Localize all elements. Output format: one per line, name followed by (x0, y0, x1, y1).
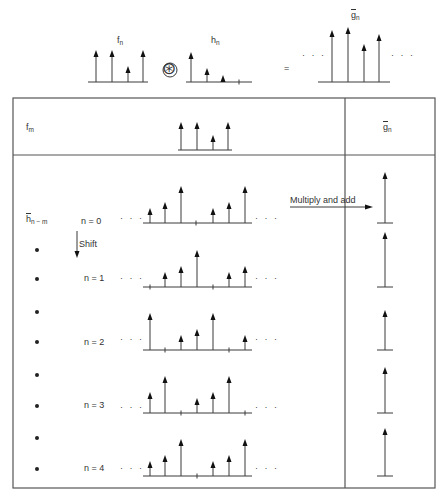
arrowhead-icon (226, 122, 231, 129)
row-label-n1: n = 1 (84, 274, 104, 283)
arrowhead-icon (227, 376, 232, 383)
arrowhead-icon (211, 392, 216, 399)
h-n-minus-m-label: hn − m (26, 215, 47, 224)
row-ellipsis-left: · · · (120, 335, 144, 344)
equals-sign: = (284, 64, 289, 73)
arrowhead-icon (362, 44, 367, 51)
bullet (35, 340, 39, 344)
arrowhead-icon (227, 455, 232, 462)
arrowhead-icon (211, 461, 216, 468)
g-n-column-header: gn (383, 123, 392, 132)
arrowhead-icon (383, 428, 388, 435)
multiply-arrow-head-icon (365, 205, 373, 210)
arrowhead-icon (383, 310, 388, 317)
row-ellipsis-left: · · · (120, 274, 144, 283)
shift-label: Shift (79, 240, 97, 249)
bullet (35, 404, 39, 408)
arrowhead-icon (227, 272, 232, 279)
arrowhead-icon (243, 186, 248, 193)
f-n-label: fn (117, 36, 123, 45)
arrowhead-icon (163, 455, 168, 462)
arrowhead-icon (163, 272, 168, 279)
arrowhead-icon (330, 30, 335, 37)
arrowhead-icon (179, 186, 184, 193)
arrowhead-icon (205, 68, 210, 75)
row-ellipsis-right: · · · (255, 274, 279, 283)
arrowhead-icon (179, 122, 184, 129)
arrowhead-icon (195, 122, 200, 129)
ellipsis-right: · · · (391, 51, 415, 60)
arrowhead-icon (211, 135, 216, 142)
arrowhead-icon (227, 202, 232, 209)
arrowhead-icon (195, 398, 200, 405)
arrowhead-icon (383, 172, 388, 179)
row-ellipsis-right: · · · (255, 214, 279, 223)
bullet (35, 310, 39, 314)
arrowhead-icon (179, 266, 184, 273)
arrowhead-icon (195, 329, 200, 336)
bullet (35, 436, 39, 440)
bullet (35, 467, 39, 471)
arrowhead-icon (189, 52, 194, 59)
g-n-bar-label: gn (351, 11, 360, 20)
arrowhead-icon (179, 439, 184, 446)
arrowhead-icon (377, 34, 382, 41)
arrowhead-icon (243, 266, 248, 273)
convolution-operator-icon: ⊛ (162, 60, 176, 77)
convolution-diagram (0, 0, 447, 500)
table-frame (13, 98, 435, 488)
arrowhead-icon (148, 313, 153, 320)
row-ellipsis-left: · · · (120, 464, 144, 473)
arrowhead-icon (383, 367, 388, 374)
row-ellipsis-right: · · · (255, 403, 279, 412)
bullet (35, 277, 39, 281)
row-ellipsis-right: · · · (255, 464, 279, 473)
arrowhead-icon (163, 376, 168, 383)
arrowhead-icon (148, 461, 153, 468)
row-ellipsis-right: · · · (255, 335, 279, 344)
arrowhead-icon (148, 208, 153, 215)
arrowhead-icon (211, 208, 216, 215)
arrowhead-icon (211, 313, 216, 320)
bullet (35, 373, 39, 377)
arrowhead-icon (141, 50, 146, 57)
arrowhead-icon (221, 75, 226, 82)
arrowhead-icon (126, 66, 131, 73)
arrowhead-icon (243, 439, 248, 446)
arrowhead-icon (163, 202, 168, 209)
arrowhead-icon (383, 232, 388, 239)
h-n-label: hn (211, 36, 220, 45)
shift-arrow-head-icon (75, 251, 80, 258)
bullet (35, 248, 39, 252)
arrowhead-icon (94, 50, 99, 57)
arrowhead-icon (148, 392, 153, 399)
f-m-label: fm (26, 123, 34, 132)
arrowhead-icon (346, 27, 351, 34)
arrowhead-icon (243, 335, 248, 342)
multiply-and-add-label: Multiply and add (290, 196, 356, 205)
row-label-n2: n = 2 (84, 338, 104, 347)
arrowhead-icon (179, 335, 184, 342)
row-label-n4: n = 4 (84, 464, 104, 473)
row-label-n3: n = 3 (84, 401, 104, 410)
row-label-n0: n = 0 (81, 217, 101, 226)
row-ellipsis-left: · · · (120, 403, 144, 412)
ellipsis-left: · · · (302, 51, 326, 60)
arrowhead-icon (195, 250, 200, 257)
row-ellipsis-left: · · · (120, 214, 144, 223)
arrowhead-icon (110, 50, 115, 57)
